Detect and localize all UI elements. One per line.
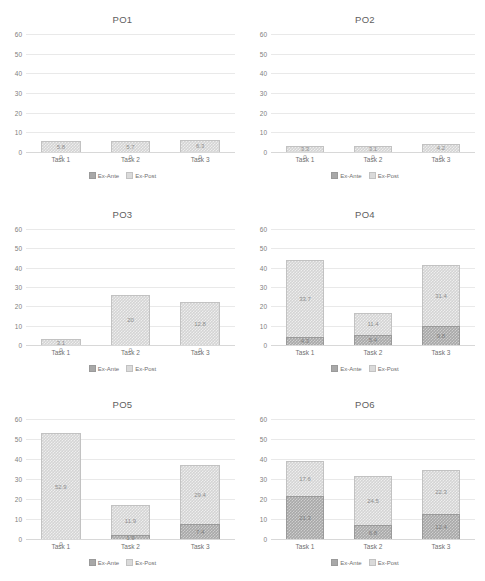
bar-segment-ex-ante[interactable]: 6.8 bbox=[354, 525, 393, 539]
y-axis-tick-label: 40 bbox=[15, 455, 22, 462]
bar-segment-ex-post[interactable]: 33.7 bbox=[286, 260, 325, 337]
bar-column[interactable]: 3.30 bbox=[286, 34, 325, 152]
y-axis-tick-label: 20 bbox=[15, 109, 22, 116]
y-axis-tick-label: 40 bbox=[260, 455, 267, 462]
chart-panel-po4: PO4605040302010033.74.311.45.431.49.8Tas… bbox=[245, 195, 485, 385]
legend-label: Ex-Ante bbox=[98, 366, 119, 372]
legend-item-post[interactable]: Ex-Post bbox=[126, 559, 156, 566]
y-axis-tick-label: 30 bbox=[260, 90, 267, 97]
legend-swatch-ante-icon bbox=[331, 559, 338, 566]
legend-item-ante[interactable]: Ex-Ante bbox=[89, 365, 119, 372]
bar-segment-ex-ante[interactable]: 12.4 bbox=[422, 514, 461, 539]
x-axis-tick-label: Task 2 bbox=[354, 349, 393, 356]
y-axis-tick-label: 40 bbox=[260, 264, 267, 271]
legend-swatch-post-icon bbox=[369, 365, 376, 372]
bar-segment-ex-post[interactable]: 11.9 bbox=[111, 505, 151, 535]
bar-value-label: 31.4 bbox=[435, 293, 447, 299]
legend-swatch-ante-icon bbox=[89, 365, 96, 372]
y-axis-tick-label: 20 bbox=[260, 109, 267, 116]
y-axis-tick-label: 0 bbox=[18, 536, 22, 543]
bar-column[interactable]: 31.49.8 bbox=[422, 229, 461, 345]
bar-series-group: 3.303.104.20 bbox=[271, 34, 475, 152]
plot-area: 605040302010033.74.311.45.431.49.8 bbox=[271, 229, 475, 345]
x-axis-tick-label: Task 2 bbox=[111, 349, 151, 356]
bar-segment-ex-ante[interactable]: 21.3 bbox=[286, 496, 325, 539]
legend-swatch-post-icon bbox=[126, 559, 133, 566]
legend-item-post[interactable]: Ex-Post bbox=[369, 172, 399, 179]
bar-value-label: 21.3 bbox=[299, 515, 311, 521]
bar-segment-ex-ante[interactable]: 9.8 bbox=[422, 326, 461, 345]
bar-segment-ex-post[interactable]: 5.8 bbox=[41, 141, 81, 152]
legend-item-post[interactable]: Ex-Post bbox=[369, 559, 399, 566]
legend-item-ante[interactable]: Ex-Ante bbox=[89, 559, 119, 566]
legend-swatch-post-icon bbox=[369, 172, 376, 179]
bar-column[interactable]: 11.45.4 bbox=[354, 229, 393, 345]
bar-segment-ex-post[interactable]: 52.9 bbox=[41, 433, 81, 539]
bar-segment-ex-ante[interactable]: 7.4 bbox=[180, 524, 220, 539]
bar-value-label: 4.2 bbox=[437, 145, 445, 151]
bar-segment-ex-post[interactable]: 5.7 bbox=[111, 141, 151, 152]
bar-column[interactable]: 5.70 bbox=[111, 34, 151, 152]
legend-swatch-ante-icon bbox=[89, 172, 96, 179]
bar-value-label: 52.9 bbox=[55, 484, 67, 490]
bar-column[interactable]: 3.10 bbox=[354, 34, 393, 152]
x-axis-labels: Task 1Task 2Task 3 bbox=[271, 345, 475, 356]
legend-item-post[interactable]: Ex-Post bbox=[126, 365, 156, 372]
bar-value-label: 20 bbox=[127, 317, 134, 323]
x-axis-tick-label: Task 2 bbox=[354, 543, 393, 550]
bar-column[interactable]: 22.312.4 bbox=[422, 419, 461, 539]
bar-value-label: 24.5 bbox=[367, 498, 379, 504]
bar-column[interactable]: 4.20 bbox=[422, 34, 461, 152]
y-axis-tick-label: 60 bbox=[15, 226, 22, 233]
bar-value-label: 5.7 bbox=[126, 144, 134, 150]
legend-swatch-ante-icon bbox=[331, 172, 338, 179]
bar-segment-ex-post[interactable]: 29.4 bbox=[180, 465, 220, 524]
bar-segment-ex-post[interactable]: 31.4 bbox=[422, 265, 461, 326]
bar-segment-ex-ante[interactable]: 4.3 bbox=[286, 337, 325, 345]
bar-value-label: 11.4 bbox=[367, 321, 378, 327]
bar-column[interactable]: 29.47.4 bbox=[180, 419, 220, 539]
legend-label: Ex-Post bbox=[378, 366, 399, 372]
x-axis-tick-label: Task 2 bbox=[111, 543, 151, 550]
legend-item-post[interactable]: Ex-Post bbox=[126, 172, 156, 179]
y-axis-tick-label: 40 bbox=[15, 264, 22, 271]
bar-column[interactable]: 24.56.8 bbox=[354, 419, 393, 539]
legend-item-ante[interactable]: Ex-Ante bbox=[331, 559, 361, 566]
bar-segment-ex-post[interactable]: 4.2 bbox=[422, 144, 461, 152]
y-axis-tick-label: 20 bbox=[15, 495, 22, 502]
bar-segment-ex-post[interactable]: 24.5 bbox=[354, 476, 393, 525]
bar-column[interactable]: 12.80 bbox=[180, 229, 220, 345]
legend-item-ante[interactable]: Ex-Ante bbox=[89, 172, 119, 179]
chart-legend: Ex-AnteEx-Post bbox=[245, 172, 485, 179]
bar-segment-ex-post[interactable]: 11.4 bbox=[354, 313, 393, 335]
bar-column[interactable]: 3.10 bbox=[41, 229, 81, 345]
bar-column[interactable]: 6.30 bbox=[180, 34, 220, 152]
x-axis-tick-label: Task 3 bbox=[180, 543, 220, 550]
plot-area: 60504030201003.303.104.20 bbox=[271, 34, 475, 152]
legend-item-post[interactable]: Ex-Post bbox=[369, 365, 399, 372]
bar-segment-ex-post[interactable]: 20 bbox=[111, 295, 151, 345]
legend-label: Ex-Ante bbox=[340, 366, 361, 372]
bar-value-label: 6.8 bbox=[369, 530, 377, 536]
y-axis-tick-label: 40 bbox=[15, 70, 22, 77]
legend-label: Ex-Post bbox=[378, 560, 399, 566]
y-axis-tick-label: 10 bbox=[15, 322, 22, 329]
bar-segment-ex-post[interactable]: 6.3 bbox=[180, 140, 220, 152]
bar-column[interactable]: 200 bbox=[111, 229, 151, 345]
x-axis-tick-label: Task 1 bbox=[286, 156, 325, 163]
bar-column[interactable]: 17.621.3 bbox=[286, 419, 325, 539]
bar-segment-ex-post[interactable]: 17.6 bbox=[286, 461, 325, 496]
bar-value-label: 5.8 bbox=[57, 144, 65, 150]
bar-segment-ex-post[interactable]: 12.8 bbox=[180, 302, 220, 345]
bar-segment-ex-post[interactable]: 22.3 bbox=[422, 470, 461, 515]
bar-column[interactable]: 5.80 bbox=[41, 34, 81, 152]
bar-column[interactable]: 52.90 bbox=[41, 419, 81, 539]
bar-value-label: 4.3 bbox=[301, 338, 309, 344]
legend-item-ante[interactable]: Ex-Ante bbox=[331, 365, 361, 372]
y-axis-tick-label: 10 bbox=[15, 516, 22, 523]
bar-column[interactable]: 33.74.3 bbox=[286, 229, 325, 345]
bar-column[interactable]: 11.91.9 bbox=[111, 419, 151, 539]
legend-item-ante[interactable]: Ex-Ante bbox=[331, 172, 361, 179]
legend-label: Ex-Post bbox=[378, 173, 399, 179]
bar-segment-ex-ante[interactable]: 5.4 bbox=[354, 335, 393, 345]
